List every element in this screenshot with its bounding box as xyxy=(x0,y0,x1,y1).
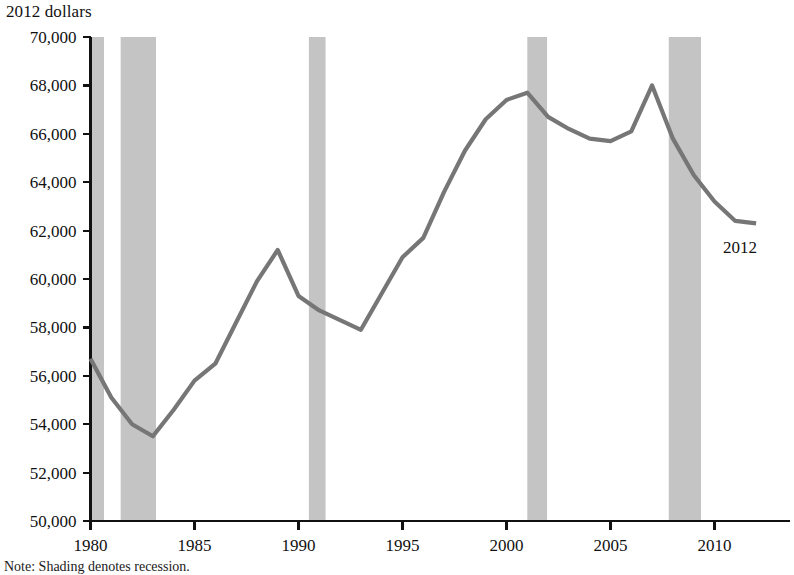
y-axis-tick-label: 56,000 xyxy=(30,367,77,386)
recession-band xyxy=(92,37,104,521)
x-axis-tick-label: 1990 xyxy=(282,536,316,555)
y-axis-tick-label: 58,000 xyxy=(30,318,77,337)
recession-bands-group xyxy=(92,37,701,521)
y-axis-tick-label: 54,000 xyxy=(30,415,77,434)
x-axis-ticks-group: 1980198519901995200020052010 xyxy=(74,521,732,555)
x-axis-tick-label: 2000 xyxy=(490,536,524,555)
recession-band xyxy=(309,37,326,521)
series-end-label: 2012 xyxy=(723,238,757,257)
annotations-group: 2012 xyxy=(723,238,757,257)
y-axis-tick-label: 50,000 xyxy=(30,512,77,531)
x-axis-tick-label: 1995 xyxy=(386,536,420,555)
x-axis-tick-label: 1985 xyxy=(178,536,212,555)
x-axis-tick-label: 2005 xyxy=(594,536,628,555)
y-axis-ticks-group: 50,00052,00054,00056,00058,00060,00062,0… xyxy=(30,28,91,531)
x-axis-tick-label: 1980 xyxy=(74,536,108,555)
chart-note: Note: Shading denotes recession. xyxy=(4,559,190,575)
y-axis-tick-label: 70,000 xyxy=(30,28,77,47)
y-axis-tick-label: 68,000 xyxy=(30,76,77,95)
data-series-line xyxy=(91,85,757,436)
x-axis-tick-label: 2010 xyxy=(698,536,732,555)
y-axis-tick-label: 64,000 xyxy=(30,173,77,192)
y-axis-tick-label: 60,000 xyxy=(30,270,77,289)
y-axis-tick-label: 62,000 xyxy=(30,222,77,241)
recession-band xyxy=(669,37,701,521)
recession-band xyxy=(121,37,156,521)
y-axis-tick-label: 52,000 xyxy=(30,464,77,483)
data-series-group xyxy=(91,85,757,436)
y-axis-tick-label: 66,000 xyxy=(30,125,77,144)
